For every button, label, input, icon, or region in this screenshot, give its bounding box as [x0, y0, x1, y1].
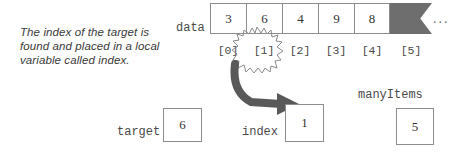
- index-variable-label: index: [242, 125, 278, 139]
- array-index-label: [0]: [210, 44, 246, 57]
- index-variable-box: 1: [285, 104, 324, 142]
- manyitems-variable-box: 5: [396, 108, 434, 145]
- array-name-label: data: [176, 21, 205, 35]
- array-index-label-highlighted: [1]: [246, 44, 282, 57]
- target-variable-label: target: [117, 125, 160, 139]
- array-cell-unused: [390, 3, 432, 34]
- array-ellipsis: ...: [433, 11, 450, 27]
- manyitems-variable-label: manyItems: [358, 88, 423, 102]
- array-index-label: [3]: [318, 44, 354, 57]
- array-index-label: [5]: [390, 44, 432, 57]
- array-cell: 4: [282, 3, 318, 34]
- array-cell: 3: [210, 3, 246, 34]
- array-cell: 6: [246, 3, 282, 34]
- diagram-canvas: The index of the target is found and pla…: [0, 0, 460, 156]
- array-cell: 9: [318, 3, 354, 34]
- array-index-label: [2]: [282, 44, 318, 57]
- array-index-labels: [0] [1] [2] [3] [4] [5]: [210, 44, 432, 57]
- array-cell: 8: [354, 3, 390, 34]
- array-index-label: [4]: [354, 44, 390, 57]
- target-variable-box: 6: [163, 108, 202, 142]
- data-array: 3 6 4 9 8: [210, 3, 432, 34]
- explanation-caption: The index of the target is found and pla…: [20, 25, 170, 68]
